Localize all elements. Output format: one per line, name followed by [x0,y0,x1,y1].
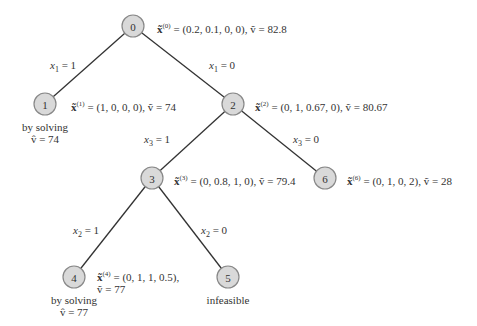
annotation-node-0: x̃(0) = (0.2, 0.1, 0, 0), ṽ = 82.8 [157,20,287,35]
svg-text:0: 0 [130,21,136,33]
annotation-node-6: x̃(6) = (0, 1, 0, 2), ṽ = 28 [347,172,452,187]
svg-text:4: 4 [71,272,77,284]
node-5: 5 [217,266,239,288]
tree-diagram: 0 1 2 3 6 4 5 [0,0,477,326]
note-node-1: by solvingv̂ = 74 [15,121,75,145]
note-node-4: by solvingv̂ = 77 [44,294,104,318]
svg-text:3: 3 [149,173,155,185]
edge-label-2-3: x3 = 1 [144,133,170,150]
svg-text:1: 1 [42,99,48,111]
annotation-node-4: x̃(4) = (0, 1, 1, 0.5),ṽ = 77 [97,268,179,295]
note-node-5: infeasible [198,294,258,306]
svg-text:2: 2 [230,99,236,111]
node-3: 3 [141,167,163,189]
annotation-node-3: x̃(3) = (0, 0.8, 1, 0), ṽ = 79.4 [174,172,295,187]
edge-label-3-5: x2 = 0 [201,224,227,241]
node-4: 4 [63,266,85,288]
node-0: 0 [122,15,144,37]
annotation-node-1: x̃(1) = (1, 0, 0, 0), ṽ = 74 [71,98,176,113]
node-2: 2 [222,93,244,115]
node-6: 6 [314,167,336,189]
svg-text:5: 5 [225,272,231,284]
edge-label-2-6: x3 = 0 [293,133,319,150]
edge-label-0-1: x1 = 1 [50,59,76,76]
annotation-node-2: x̃(2) = (0, 1, 0.67, 0), ṽ = 80.67 [255,98,387,113]
edge-label-3-4: x2 = 1 [73,224,99,241]
node-1: 1 [34,93,56,115]
svg-text:6: 6 [322,173,328,185]
edge-label-0-2: x1 = 0 [209,59,235,76]
